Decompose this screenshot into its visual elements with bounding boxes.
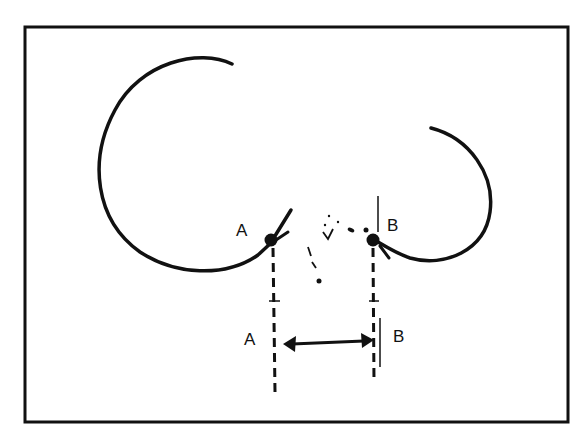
middle-dotted-marks [308,215,355,284]
right-arc [378,128,491,261]
label-a-top: A [236,222,247,239]
label-a-bottom: A [244,331,255,348]
projection-line-b [373,248,374,382]
label-b-top: B [387,217,398,234]
point-b-nub [364,228,369,233]
distance-double-arrow [283,333,374,352]
diagram-canvas [0,0,585,435]
label-b-bottom: B [393,328,404,345]
projection-line-a [273,248,275,392]
point-a-dot [265,234,278,247]
point-b-dot [367,234,380,247]
